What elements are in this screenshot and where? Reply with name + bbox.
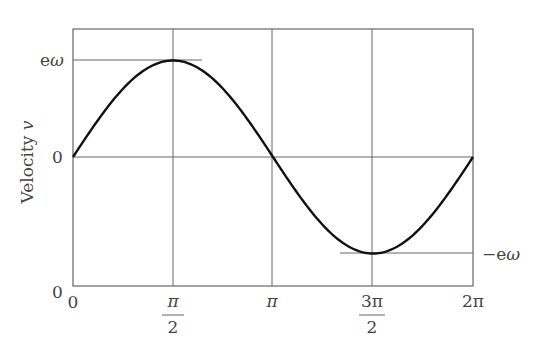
svg-text:2: 2 (168, 317, 179, 337)
x-tick-pi: π (265, 291, 278, 311)
y-axis-label: Velocity v (17, 120, 37, 204)
x-tick-2pi: 2π (462, 291, 484, 311)
y-tick-bottom: 0 (52, 282, 63, 302)
svg-text:3π: 3π (361, 291, 383, 311)
x-tick-0: 0 (68, 292, 79, 312)
annotation-neg-e-omega: −eω (482, 244, 520, 264)
y-tick-max: eω (40, 50, 64, 70)
x-tick-3pi-half: 3π 2 (359, 291, 385, 337)
x-tick-pi-half: π 2 (162, 291, 184, 337)
svg-text:2: 2 (367, 317, 378, 337)
velocity-chart: eω 0 0 −eω Velocity v 0 π 2 π 3π 2 2π (0, 0, 542, 349)
y-tick-zero: 0 (52, 147, 63, 167)
svg-text:π: π (166, 291, 179, 311)
